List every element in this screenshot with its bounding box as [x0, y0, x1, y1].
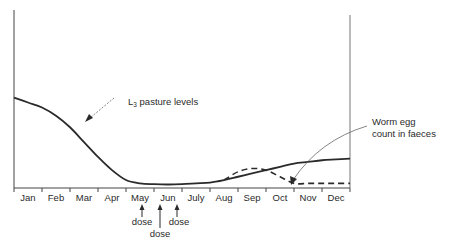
dose-marker-3: dose	[169, 204, 190, 227]
l3-annotation-leader	[90, 98, 114, 118]
x-tick-label: Oct	[273, 192, 288, 203]
dose-markers: dose dose dose	[132, 204, 190, 239]
x-tick-label: May	[131, 192, 149, 203]
x-tick-label: Nov	[300, 192, 317, 203]
dose-label-3: dose	[169, 216, 190, 227]
parasite-seasonal-chart: JanFebMarAprMayJunJulyAugSepOctNovDec L3…	[0, 0, 450, 245]
dose-label-1: dose	[132, 216, 153, 227]
x-axis-tick-labels: JanFebMarAprMayJunJulyAugSepOctNovDec	[20, 192, 344, 203]
worm-egg-label-line2: count in faeces	[372, 128, 436, 139]
l3-annotation: L3 pasture levels	[85, 96, 198, 122]
x-tick-label: Dec	[328, 192, 345, 203]
dose-marker-2: dose	[150, 204, 171, 239]
x-tick-label: Aug	[216, 192, 233, 203]
worm-egg-label-line1: Worm egg	[372, 116, 416, 127]
worm-egg-annotation-leader	[293, 126, 367, 180]
l3-arrowhead-icon	[85, 114, 93, 122]
up-arrow-icon	[158, 204, 163, 210]
l3-annotation-label: L3 pasture levels	[128, 96, 198, 108]
up-arrow-icon	[175, 204, 180, 210]
up-arrow-icon	[140, 204, 145, 210]
x-tick-label: Jun	[160, 192, 175, 203]
dose-label-2: dose	[150, 228, 171, 239]
worm-egg-annotation: Worm egg count in faeces	[290, 116, 436, 185]
x-tick-label: Sep	[244, 192, 261, 203]
x-tick-label: Feb	[48, 192, 64, 203]
x-tick-label: Apr	[105, 192, 120, 203]
dose-marker-1: dose	[132, 204, 153, 227]
x-tick-label: Jan	[20, 192, 35, 203]
x-tick-label: July	[188, 192, 205, 203]
x-tick-label: Mar	[76, 192, 92, 203]
